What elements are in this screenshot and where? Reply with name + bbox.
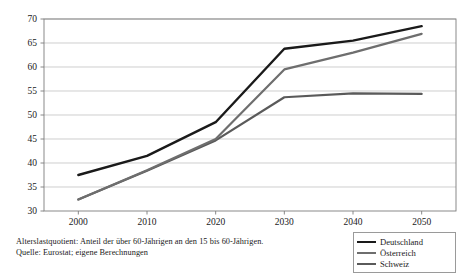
y-axis-tick-label: 30 [28, 206, 38, 216]
chart-legend: Deutschland Österreich Schweiz [353, 232, 456, 273]
y-axis-tick-label: 35 [28, 182, 38, 192]
x-axis-tick-label: 2020 [206, 217, 225, 227]
legend-label-deutschland: Deutschland [380, 237, 423, 247]
chart-figure: 3035404550556065702000201020202030204020… [0, 0, 467, 279]
y-axis-tick-label: 60 [28, 62, 38, 72]
y-axis-tick-label: 40 [28, 158, 38, 168]
y-axis-tick-label: 50 [28, 110, 38, 120]
x-axis-tick-label: 2010 [138, 217, 157, 227]
legend-swatch-osterreich [357, 252, 376, 254]
chart-caption: Alterslastquotient: Anteil der über 60-J… [16, 236, 316, 259]
legend-item-osterreich: Österreich [357, 247, 451, 258]
y-axis-tick-label: 65 [28, 38, 38, 48]
caption-line-2: Quelle: Eurostat; eigene Berechnungen [16, 247, 316, 258]
y-axis-tick-label: 70 [28, 14, 38, 24]
y-axis-tick-label: 55 [28, 86, 38, 96]
legend-swatch-schweiz [357, 263, 376, 265]
x-axis-tick-label: 2040 [344, 217, 363, 227]
legend-label-schweiz: Schweiz [380, 259, 409, 269]
series-line-sterreich [78, 34, 421, 200]
y-axis-tick-label: 45 [28, 134, 38, 144]
x-axis-tick-label: 2000 [69, 217, 88, 227]
legend-swatch-deutschland [357, 241, 376, 243]
series-line-schweiz [78, 93, 421, 199]
legend-item-deutschland: Deutschland [357, 236, 451, 247]
caption-line-1: Alterslastquotient: Anteil der über 60-J… [16, 236, 316, 247]
x-axis-tick-label: 2030 [275, 217, 294, 227]
x-axis-tick-label: 2050 [412, 217, 431, 227]
legend-label-osterreich: Österreich [380, 248, 416, 258]
legend-item-schweiz: Schweiz [357, 258, 451, 269]
